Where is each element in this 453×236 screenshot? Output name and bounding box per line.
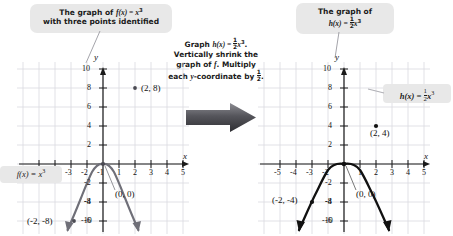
- right-x-axis-label: x: [424, 151, 428, 161]
- right-ytick--8-label: -8: [325, 197, 332, 206]
- left-xtick-1: 1: [117, 168, 121, 177]
- right-ytick-4: 4: [328, 121, 332, 130]
- left-xtick--1: -1: [97, 168, 104, 177]
- left-xtick-5: 5: [181, 168, 185, 177]
- left-ytick-4: 4: [87, 121, 91, 130]
- left-curve-arrow-bottom: [65, 221, 74, 232]
- left-curve-arrow-top: [133, 221, 142, 232]
- right-xtick--3: -3: [306, 168, 313, 177]
- right-xtick--4: -4: [290, 168, 297, 177]
- right-ytick-6: 6: [328, 102, 332, 111]
- transformation-arrow: [186, 103, 258, 133]
- left-ytick-10: 10: [82, 64, 90, 73]
- right-xtick--5: -5: [274, 168, 281, 177]
- label-box-h: h(x) = 12x3: [383, 84, 451, 103]
- instruction-line-1: Graph h(x) = 12x3.: [160, 37, 272, 50]
- callout-right-top-pointer: [330, 32, 350, 60]
- right-ytick-2: 2: [328, 140, 332, 149]
- left-ytick--8-label: -8: [84, 197, 91, 206]
- callout-right-top: The graph of h(x) = 12x3: [296, 3, 394, 34]
- left-xtick-4: 4: [165, 168, 169, 177]
- callout-right-top-line2: h(x) = 12x3: [296, 16, 394, 29]
- right-ytick--2: -2: [325, 178, 332, 187]
- left-ytick--10-label: -10: [81, 216, 92, 225]
- left-point-label--2--8: (-2, -8): [27, 216, 53, 226]
- left-y-arrowhead: [100, 67, 106, 75]
- right-xtick-5: 5: [422, 168, 426, 177]
- left-graph: y x -5 -4 -3 -2 -1 1 2 3 4 5 10 8 6 4 2 …: [17, 62, 189, 234]
- left-ytick-8: 8: [87, 83, 91, 92]
- right-xtick-2: 2: [374, 168, 378, 177]
- left-ytick-2: 2: [87, 140, 91, 149]
- left-axes: [19, 74, 184, 232]
- right-xtick--2: -2: [322, 168, 329, 177]
- right-xtick-4: 4: [406, 168, 410, 177]
- left-graph-svg: [17, 62, 189, 234]
- right-xtick-3: 3: [390, 168, 394, 177]
- left-point-label-2-8: (2, 8): [141, 83, 161, 93]
- right-point-label--2--4: (-2, -4): [272, 195, 298, 205]
- left-xtick--2: -2: [81, 168, 88, 177]
- left-xtick-3: 3: [149, 168, 153, 177]
- callout-left-top: The graph of f(x) = x3 with three points…: [30, 4, 172, 33]
- left-y-axis-label: y: [94, 52, 98, 62]
- right-curve-arrow-top: [383, 220, 392, 232]
- right-y-axis-label: y: [335, 52, 339, 62]
- callout-right-top-line1: The graph of: [296, 7, 394, 16]
- right-point-label-2-4: (2, 4): [370, 128, 390, 138]
- right-ytick-10: 10: [323, 64, 331, 73]
- label-box-f: f(x) = x3: [0, 166, 62, 183]
- right-origin-leader: [346, 166, 356, 190]
- left-xtick--3: -3: [65, 168, 72, 177]
- figure-root: The graph of f(x) = x3 with three points…: [0, 0, 453, 236]
- instruction-line-2: Vertically shrink the: [160, 50, 272, 60]
- right-curve-arrow-bottom: [297, 220, 306, 232]
- label-box-h-pointer: [366, 88, 386, 100]
- left-xtick-2: 2: [133, 168, 137, 177]
- right-ytick-8: 8: [328, 83, 332, 92]
- left-ytick--2: -2: [84, 178, 91, 187]
- right-y-arrowhead: [341, 67, 347, 75]
- callout-left-top-line1: The graph of f(x) = x3: [30, 8, 172, 17]
- right-ytick--10-label: -10: [322, 216, 333, 225]
- right-point-label-0-0: (0, 0): [356, 189, 376, 199]
- callout-left-top-line2: with three points identified: [30, 17, 172, 26]
- left-point-label-0-0: (0, 0): [115, 189, 135, 199]
- left-x-axis-label: x: [183, 151, 187, 161]
- right-xtick-1: 1: [358, 168, 362, 177]
- left-ytick-6: 6: [87, 102, 91, 111]
